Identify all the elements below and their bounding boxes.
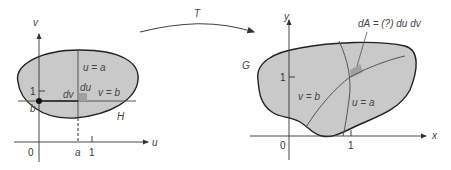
du-dv-patch xyxy=(79,93,87,101)
v-equals-b-label-right: v = b xyxy=(298,91,320,102)
b-label: b xyxy=(30,103,36,114)
origin-label-right: 0 xyxy=(280,140,286,151)
v-axis-label: v xyxy=(33,17,39,28)
y-axis-label: y xyxy=(283,11,290,22)
tick-u-1-label: 1 xyxy=(89,147,95,158)
dv-label: dv xyxy=(63,89,75,100)
uv-plane: v u 0 a 1 1 b u = a v = b du dv H xyxy=(14,17,158,162)
u-axis-label: u xyxy=(152,137,158,148)
tick-y-1-label: 1 xyxy=(280,72,286,83)
point-b xyxy=(36,98,42,104)
a-label: a xyxy=(75,147,81,158)
tick-v-1-label: 1 xyxy=(30,86,36,97)
v-equals-b-label-left: v = b xyxy=(98,87,120,98)
region-g xyxy=(258,42,416,136)
xy-plane: y x 0 1 1 G v = b u = a dA = (?) du dv xyxy=(242,11,438,160)
du-label: du xyxy=(80,82,92,93)
transform-label: T xyxy=(194,8,201,19)
x-axis-label: x xyxy=(431,130,438,141)
tick-x-1-label: 1 xyxy=(348,140,354,151)
region-g-label: G xyxy=(242,60,250,71)
u-equals-a-label-right: u = a xyxy=(352,97,375,108)
area-element-label: dA = (?) du dv xyxy=(358,18,422,29)
change-of-variables-diagram: v u 0 a 1 1 b u = a v = b du dv H T xyxy=(0,0,451,170)
transform-arrow: T xyxy=(140,8,254,32)
u-equals-a-label-left: u = a xyxy=(83,62,106,73)
transform-arrow-curve xyxy=(140,24,254,32)
region-h-label: H xyxy=(117,111,125,122)
origin-label-left: 0 xyxy=(28,147,34,158)
